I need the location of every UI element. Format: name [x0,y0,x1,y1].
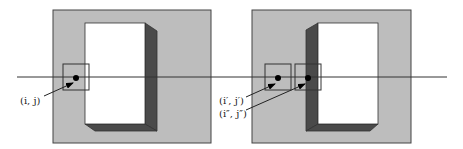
right-object-face [318,23,378,124]
stereo-correspondence-diagram: (i, j) (i′, j′) (i″, j″) [0,0,463,149]
left-object-face [85,23,145,124]
pixel-dot-ij [73,75,79,81]
right-object-shade-bottom [306,124,378,131]
label-pixel-ij-prime: (i′, j′) [219,95,244,106]
pixel-dot-ij-prime [275,75,281,81]
label-pixel-ij: (i, j) [20,95,41,106]
pixel-dot-ij-double-prime [305,75,311,81]
left-object-shade-bottom [85,124,157,131]
label-pixel-ij-double-prime: (i″, j″) [219,108,247,119]
